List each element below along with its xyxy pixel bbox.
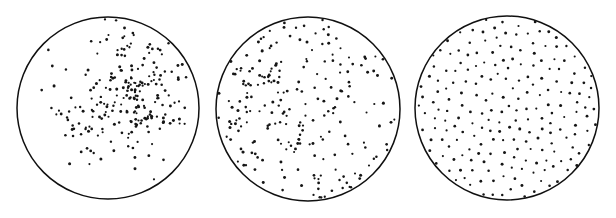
data-point [277, 139, 280, 142]
data-point [459, 62, 462, 65]
data-point [515, 109, 517, 111]
data-point [116, 53, 119, 56]
panel-plot-random [210, 11, 406, 207]
data-point [321, 19, 323, 21]
data-point [313, 177, 315, 179]
data-point [341, 187, 343, 189]
panel-plot-regular [409, 10, 605, 206]
data-point [118, 121, 121, 124]
data-point [457, 117, 460, 120]
data-point [245, 84, 247, 86]
data-point [136, 95, 139, 98]
data-point [541, 117, 544, 120]
data-point [437, 109, 439, 111]
data-point [230, 123, 232, 125]
data-point [78, 122, 81, 125]
data-point [309, 143, 311, 145]
data-point [540, 77, 543, 80]
data-point [332, 112, 334, 114]
data-point [322, 158, 324, 160]
data-point [146, 117, 149, 120]
data-point [471, 169, 474, 172]
data-point [477, 152, 480, 155]
data-point [167, 42, 169, 44]
data-point [249, 110, 251, 112]
data-point [297, 168, 300, 171]
data-point [110, 76, 113, 79]
data-point [136, 141, 138, 143]
data-point [124, 55, 127, 58]
data-point [510, 46, 513, 49]
data-point [523, 195, 526, 198]
data-point [275, 41, 277, 43]
data-point [296, 88, 299, 91]
data-point [139, 90, 141, 92]
data-point [555, 45, 558, 48]
data-point [548, 184, 551, 187]
data-point [489, 78, 492, 81]
data-point [549, 68, 551, 70]
data-point [469, 184, 471, 186]
data-point [339, 63, 341, 65]
data-point [148, 52, 150, 54]
data-point [327, 33, 330, 36]
data-point [146, 125, 149, 128]
data-point [556, 180, 559, 183]
data-point [339, 121, 342, 124]
data-point [565, 137, 567, 139]
data-point [105, 87, 107, 89]
data-point [532, 83, 534, 85]
data-point [130, 84, 132, 86]
data-point [525, 108, 528, 111]
data-point [445, 87, 447, 89]
data-point [299, 133, 302, 136]
data-point [120, 104, 122, 106]
data-point [502, 96, 505, 99]
data-point [298, 38, 301, 41]
data-point [461, 131, 464, 134]
data-point [500, 111, 503, 114]
data-point [452, 158, 455, 161]
data-point [568, 92, 571, 95]
data-point [278, 76, 280, 78]
data-point [130, 131, 133, 134]
data-point [347, 95, 350, 98]
data-point [246, 121, 248, 123]
data-point [551, 142, 553, 144]
data-point [161, 53, 163, 55]
data-point [70, 96, 73, 99]
data-point [95, 82, 98, 85]
data-point [468, 148, 470, 150]
data-point [269, 47, 271, 49]
data-point [575, 164, 578, 167]
data-point [508, 105, 511, 108]
data-point [283, 26, 286, 29]
data-point [590, 87, 592, 89]
data-point [159, 49, 162, 52]
data-point [147, 83, 150, 86]
data-point [563, 59, 566, 62]
data-point [470, 159, 473, 162]
data-point [91, 116, 93, 118]
data-point [335, 169, 337, 171]
data-point [232, 73, 235, 76]
data-point [457, 49, 459, 51]
data-point [88, 126, 90, 128]
data-point [134, 167, 137, 170]
data-point [520, 184, 523, 187]
data-point [242, 80, 245, 83]
data-point [479, 180, 482, 183]
data-point [137, 119, 139, 121]
data-point [169, 122, 172, 125]
data-point [322, 138, 325, 141]
data-point [547, 30, 550, 33]
data-point [115, 88, 118, 91]
data-point [107, 116, 109, 118]
data-point [317, 178, 319, 180]
data-point [162, 120, 165, 123]
data-point [229, 60, 232, 63]
data-point [555, 80, 558, 83]
data-point [432, 101, 435, 104]
data-point [134, 82, 136, 84]
data-point [481, 112, 484, 115]
